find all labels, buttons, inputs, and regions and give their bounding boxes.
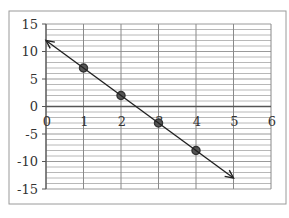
chart-frame bbox=[9, 11, 286, 204]
x-tick-label: 6 bbox=[268, 114, 276, 129]
y-tick-label: -5 bbox=[25, 127, 38, 142]
x-tick-label: 0 bbox=[43, 114, 51, 129]
y-tick-label: 10 bbox=[21, 44, 38, 59]
y-tick-label: 15 bbox=[21, 17, 38, 32]
line-chart-svg: 151050-5-10-15 0123456 bbox=[0, 0, 289, 218]
y-tick-label: 0 bbox=[30, 99, 38, 114]
chart: 151050-5-10-15 0123456 bbox=[0, 0, 289, 218]
y-tick-label: 5 bbox=[30, 72, 38, 87]
x-tick-label: 1 bbox=[80, 114, 88, 129]
y-tick-label: -10 bbox=[17, 154, 38, 169]
x-tick-label: 2 bbox=[118, 114, 126, 129]
x-tick-label: 4 bbox=[193, 114, 201, 129]
y-tick-label: -15 bbox=[17, 182, 38, 197]
x-tick-label: 5 bbox=[230, 114, 238, 129]
